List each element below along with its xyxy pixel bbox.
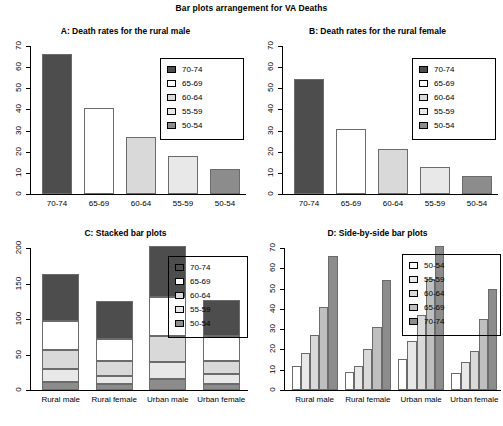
legend-swatch-60-64 — [409, 290, 418, 297]
figure-title: Bar plots arrangement for VA Deaths — [0, 3, 503, 13]
stack-segment-60-64[interactable] — [149, 336, 186, 362]
stack-segment-50-54[interactable] — [203, 384, 240, 390]
bar-65-69[interactable] — [84, 108, 114, 194]
legend-swatch-55-59 — [409, 276, 418, 283]
legend-item[interactable]: 65-69 — [167, 79, 202, 88]
bar-Urban-female-60-64[interactable] — [470, 351, 479, 390]
legend-item[interactable]: 70-74 — [419, 65, 454, 74]
y-axis-tick-label: 60 — [14, 57, 23, 77]
panel-a-plot-area: 01020304050607070-7465-6960-6455-5950-54… — [0, 26, 251, 224]
bar-Rural-male-55-59[interactable] — [301, 353, 310, 390]
legend-label-60-64: 60-64 — [424, 289, 444, 298]
y-axis-line — [30, 46, 31, 194]
bar-Rural-male-65-69[interactable] — [319, 307, 328, 390]
bar-Rural-male-60-64[interactable] — [310, 335, 319, 390]
legend-label-65-69: 65-69 — [182, 79, 202, 88]
bar-Rural-female-55-59[interactable] — [354, 366, 363, 390]
y-axis-tick-label: 0 — [14, 184, 23, 204]
bar-Rural-male-70-74[interactable] — [328, 256, 337, 390]
stack-segment-55-59[interactable] — [149, 362, 186, 379]
bar-Rural-female-65-69[interactable] — [372, 327, 381, 390]
legend-item[interactable]: 50-54 — [419, 121, 454, 130]
y-axis-tick-label: 10 — [266, 163, 275, 183]
legend-item[interactable]: 50-54 — [175, 319, 210, 328]
legend-item[interactable]: 60-64 — [175, 291, 210, 300]
legend-item[interactable]: 55-59 — [409, 275, 444, 284]
stack-segment-50-54[interactable] — [149, 379, 186, 390]
y-axis-line — [282, 46, 283, 194]
bar-70-74[interactable] — [42, 54, 72, 194]
y-axis-tick — [26, 67, 30, 68]
bar-Rural-female-70-74[interactable] — [382, 280, 391, 390]
legend-item[interactable]: 65-69 — [175, 277, 210, 286]
legend-item[interactable]: 70-74 — [409, 317, 444, 326]
legend-label-65-69: 65-69 — [434, 79, 454, 88]
x-axis-tick-label: Urban female — [437, 395, 503, 404]
bar-Rural-female-50-54[interactable] — [345, 372, 354, 390]
y-axis-tick — [278, 152, 282, 153]
legend-item[interactable]: 55-59 — [167, 107, 202, 116]
bar-Urban-male-55-59[interactable] — [407, 341, 416, 390]
stack-segment-50-54[interactable] — [42, 382, 79, 390]
bar-55-59[interactable] — [168, 156, 198, 194]
legend-item[interactable]: 70-74 — [167, 65, 202, 74]
legend-item[interactable]: 60-64 — [409, 289, 444, 298]
panel-b-plot-area: 01020304050607070-7465-6960-6455-5950-54… — [252, 26, 503, 224]
legend-swatch-65-69 — [175, 278, 184, 285]
bar-65-69[interactable] — [336, 129, 366, 194]
stack-segment-55-59[interactable] — [42, 369, 79, 382]
stack-segment-65-69[interactable] — [96, 339, 133, 361]
stack-segment-65-69[interactable] — [203, 336, 240, 361]
legend-item[interactable]: 50-54 — [167, 121, 202, 130]
y-axis-tick — [26, 284, 30, 285]
legend-label-60-64: 60-64 — [182, 93, 202, 102]
stack-segment-55-59[interactable] — [96, 376, 133, 384]
y-axis-tick — [280, 370, 284, 371]
legend-swatch-65-69 — [167, 80, 176, 87]
y-axis-tick — [278, 67, 282, 68]
bar-Rural-female-60-64[interactable] — [363, 349, 372, 390]
legend-swatch-50-54 — [409, 262, 418, 269]
x-axis-tick-label: Urban female — [189, 395, 254, 404]
stack-segment-60-64[interactable] — [96, 361, 133, 375]
y-axis-tick-label: 0 — [268, 380, 277, 400]
bar-Urban-female-50-54[interactable] — [451, 373, 460, 390]
legend-item[interactable]: 55-59 — [419, 107, 454, 116]
legend-item[interactable]: 70-74 — [175, 263, 210, 272]
y-axis-tick — [280, 268, 284, 269]
legend-item[interactable]: 60-64 — [419, 93, 454, 102]
stack-segment-55-59[interactable] — [203, 374, 240, 384]
y-axis-tick — [26, 46, 30, 47]
legend-label-50-54: 50-54 — [424, 261, 444, 270]
bar-50-54[interactable] — [462, 176, 492, 194]
bar-Urban-male-50-54[interactable] — [398, 359, 407, 390]
y-axis-tick-label: 20 — [266, 142, 275, 162]
stack-segment-50-54[interactable] — [96, 384, 133, 390]
legend-item[interactable]: 65-69 — [409, 303, 444, 312]
y-axis-tick-label: 40 — [14, 99, 23, 119]
legend-label-50-54: 50-54 — [190, 319, 210, 328]
y-axis-tick-label: 70 — [266, 36, 275, 56]
stack-segment-70-74[interactable] — [42, 274, 79, 321]
bar-Rural-male-50-54[interactable] — [292, 366, 301, 390]
y-axis-tick — [26, 88, 30, 89]
legend-label-50-54: 50-54 — [182, 121, 202, 130]
stack-segment-60-64[interactable] — [203, 361, 240, 375]
legend-item[interactable]: 50-54 — [409, 261, 444, 270]
legend-swatch-70-74 — [167, 66, 176, 73]
legend-item[interactable]: 60-64 — [167, 93, 202, 102]
legend-label-55-59: 55-59 — [424, 275, 444, 284]
bar-55-59[interactable] — [420, 167, 450, 194]
stack-segment-70-74[interactable] — [96, 301, 133, 340]
bar-Urban-female-55-59[interactable] — [461, 362, 470, 390]
bar-60-64[interactable] — [378, 149, 408, 194]
legend-item[interactable]: 55-59 — [175, 305, 210, 314]
bar-50-54[interactable] — [210, 169, 240, 194]
stack-segment-65-69[interactable] — [42, 321, 79, 350]
bar-60-64[interactable] — [126, 137, 156, 194]
y-axis-line — [284, 248, 285, 390]
stack-segment-60-64[interactable] — [42, 350, 79, 369]
legend-item[interactable]: 65-69 — [419, 79, 454, 88]
legend-swatch-50-54 — [175, 320, 184, 327]
bar-70-74[interactable] — [294, 79, 324, 194]
